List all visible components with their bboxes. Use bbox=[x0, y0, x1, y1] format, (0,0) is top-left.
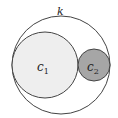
circles-diagram: k c1 c2 bbox=[0, 0, 118, 118]
circle-c2 bbox=[78, 49, 110, 81]
circle-c1 bbox=[12, 32, 78, 98]
label-k: k bbox=[57, 5, 64, 18]
